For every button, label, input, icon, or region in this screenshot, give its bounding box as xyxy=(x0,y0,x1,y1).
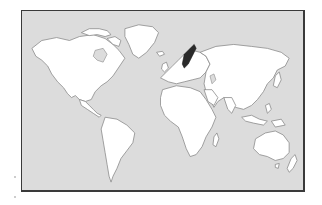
south-america xyxy=(101,117,135,182)
world-map-frame xyxy=(21,10,305,192)
north-america xyxy=(32,35,125,102)
iceland xyxy=(157,51,165,56)
scan-speck xyxy=(14,176,16,178)
greenland xyxy=(125,25,159,58)
scan-speck xyxy=(14,196,16,198)
map-canvas xyxy=(0,0,322,205)
philippines xyxy=(265,103,271,113)
indonesia xyxy=(242,115,268,125)
australia xyxy=(254,131,290,161)
new-guinea xyxy=(271,119,285,127)
tasmania xyxy=(275,163,279,168)
world-map xyxy=(22,11,303,190)
central-america xyxy=(79,100,101,118)
new-zealand xyxy=(287,155,297,173)
madagascar xyxy=(213,133,219,147)
